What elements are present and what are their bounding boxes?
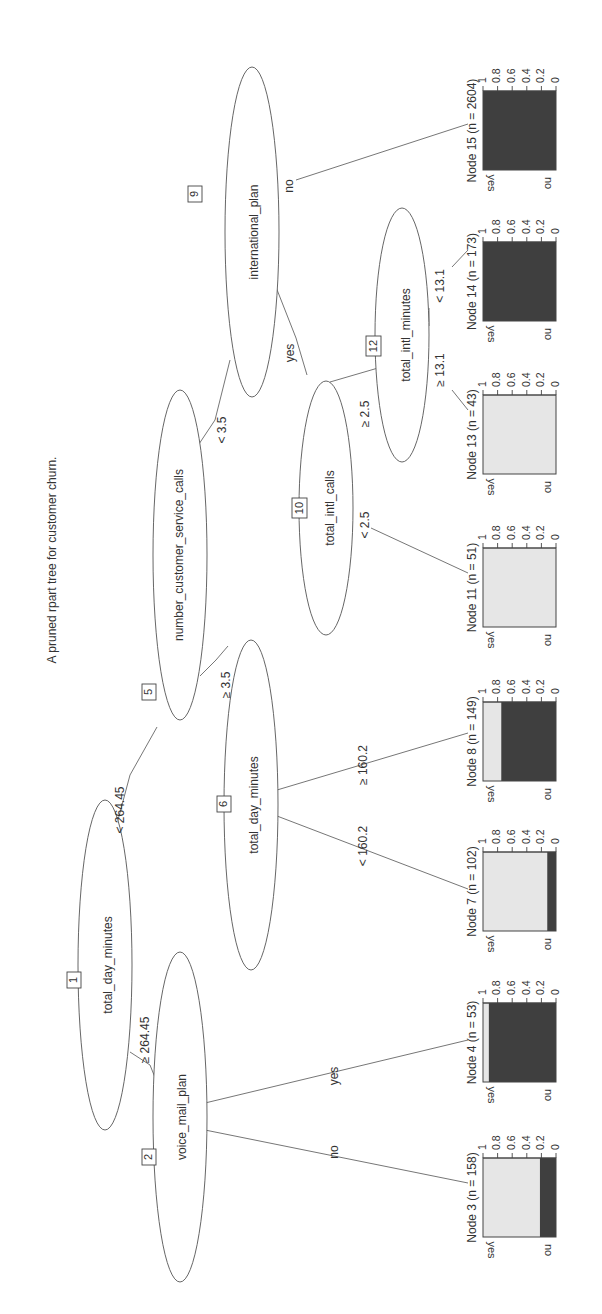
axis-tick-label: 0.2: [534, 219, 546, 234]
class-label-yes: yes: [486, 785, 498, 803]
inner-node-9: international_plan 9: [188, 67, 279, 397]
terminal-node-4: 10.80.60.40.20Node 4 (n = 53)yesno: [465, 980, 561, 1104]
terminal-node-title: Node 15 (n = 2604): [465, 79, 479, 183]
axis-tick-label: 0: [549, 688, 561, 694]
class-label-no: no: [543, 481, 555, 493]
terminal-node-13: 10.80.60.40.20Node 13 (n = 43)yesno: [465, 372, 561, 496]
edge-label-12-13: ≥ 13.1: [433, 353, 447, 387]
class-label-no: no: [543, 938, 555, 950]
terminal-node-3: 10.80.60.40.20Node 3 (n = 158)yesno: [465, 1135, 561, 1259]
terminal-node-title: Node 7 (n = 102): [465, 846, 479, 936]
class-label-yes: yes: [486, 174, 498, 192]
axis-tick-label: 1: [476, 688, 488, 694]
axis-tick-label: 0: [549, 228, 561, 234]
axis-tick-label: 0.4: [520, 219, 532, 234]
node-5-variable: number_customer_service_calls: [172, 469, 186, 641]
node-10-id: 10: [293, 502, 305, 514]
bar-yes-segment: [483, 548, 556, 627]
edge-label-10-12: ≥ 2.5: [358, 400, 372, 427]
class-label-no: no: [543, 328, 555, 340]
axis-tick-label: 1: [476, 534, 488, 540]
terminal-node-15: 10.80.60.40.20Node 15 (n = 2604)yesno: [465, 68, 561, 192]
edge-label-9-10: yes: [283, 344, 297, 363]
axis-tick-label: 1: [476, 1144, 488, 1150]
edge-label-2-3: no: [327, 1145, 341, 1159]
bar-yes-segment: [483, 702, 501, 781]
axis-tick-label: 0.2: [534, 525, 546, 540]
edge-label-9-15: no: [282, 179, 296, 193]
node-12-id: 12: [367, 340, 379, 352]
axis-tick-label: 0.6: [505, 68, 517, 83]
edge-9-15: [296, 124, 468, 180]
node-6-id: 6: [217, 801, 229, 807]
bar-no-segment: [489, 1003, 556, 1082]
terminal-node-7: 10.80.60.40.20Node 7 (n = 102)yesno: [465, 829, 561, 953]
edge-6-7: [277, 816, 468, 889]
edge-label-1-2: ≥ 264.45: [138, 1016, 152, 1063]
axis-tick-label: 0.6: [505, 679, 517, 694]
terminal-node-11: 10.80.60.40.20Node 11 (n = 51)yesno: [465, 525, 561, 649]
terminal-node-title: Node 4 (n = 53): [465, 1001, 479, 1085]
axis-tick-label: 0.6: [505, 219, 517, 234]
axis-tick-label: 0.8: [490, 219, 502, 234]
axis-tick-label: 1: [476, 838, 488, 844]
axis-tick-label: 0.4: [520, 829, 532, 844]
node-9-variable: international_plan: [247, 185, 261, 280]
axis-tick-label: 0.2: [534, 68, 546, 83]
axis-tick-label: 0.6: [505, 980, 517, 995]
terminal-node-title: Node 11 (n = 51): [465, 543, 479, 633]
axis-tick-label: 0: [549, 989, 561, 995]
node-6-variable: total_day_minutes: [247, 756, 261, 853]
axis-tick-label: 0.2: [534, 980, 546, 995]
edge-label-12-14: < 13.1: [433, 269, 447, 303]
axis-tick-label: 0.8: [490, 829, 502, 844]
axis-tick-label: 0.8: [490, 1135, 502, 1150]
terminal-nodes: 10.80.60.40.20Node 3 (n = 158)yesno10.80…: [465, 68, 561, 1259]
bar-no-segment: [501, 702, 556, 781]
class-label-no: no: [543, 1089, 555, 1101]
axis-tick-label: 0: [549, 77, 561, 83]
edge-label-2-4: yes: [327, 1067, 341, 1086]
class-label-yes: yes: [486, 631, 498, 649]
node-12-variable: total_intl_minutes: [399, 288, 413, 381]
bar-yes-segment: [483, 395, 556, 474]
edge-label-6-7: < 160.2: [356, 825, 370, 866]
axis-tick-label: 0.2: [534, 1135, 546, 1150]
axis-tick-label: 0.4: [520, 68, 532, 83]
node-5-id: 5: [142, 689, 154, 695]
bar-no-segment: [547, 852, 556, 931]
axis-tick-label: 0.8: [490, 679, 502, 694]
axis-tick-label: 0.8: [490, 980, 502, 995]
bar-no-segment: [483, 91, 556, 170]
edge-6-8: [277, 733, 468, 790]
axis-tick-label: 0: [549, 838, 561, 844]
axis-tick-label: 0.4: [520, 525, 532, 540]
terminal-node-8: 10.80.60.40.20Node 8 (n = 149)yesno: [465, 679, 561, 803]
bar-yes-segment: [483, 1158, 540, 1237]
class-label-yes: yes: [486, 478, 498, 496]
terminal-node-title: Node 3 (n = 158): [465, 1152, 479, 1242]
terminal-node-title: Node 13 (n = 43): [465, 389, 479, 479]
axis-tick-label: 0: [549, 1144, 561, 1150]
axis-tick-label: 0.6: [505, 1135, 517, 1150]
axis-tick-label: 0.2: [534, 829, 546, 844]
diagram-title: A pruned rpart tree for customer churn.: [45, 457, 59, 664]
bar-no-segment: [483, 242, 556, 321]
terminal-node-14: 10.80.60.40.20Node 14 (n = 173)yesno: [465, 219, 561, 343]
edge-10-11: [371, 528, 468, 573]
axis-tick-label: 0: [549, 534, 561, 540]
axis-tick-label: 0.6: [505, 525, 517, 540]
inner-node-2: voice_mail_plan 2: [142, 952, 207, 1282]
node-9-id: 9: [188, 191, 200, 197]
class-label-yes: yes: [486, 1241, 498, 1259]
axis-tick-label: 0.6: [505, 829, 517, 844]
axis-tick-label: 0.2: [534, 679, 546, 694]
inner-node-12: total_intl_minutes 12: [366, 208, 429, 462]
axis-tick-label: 0.8: [490, 68, 502, 83]
edge-label-10-11: < 2.5: [358, 511, 372, 538]
class-label-no: no: [543, 1244, 555, 1256]
axis-tick-label: 0.8: [490, 525, 502, 540]
decision-tree-diagram: A pruned rpart tree for customer churn.: [0, 0, 602, 1314]
axis-tick-label: 0.4: [520, 1135, 532, 1150]
inner-node-10: total_intl_calls 10: [292, 381, 353, 635]
